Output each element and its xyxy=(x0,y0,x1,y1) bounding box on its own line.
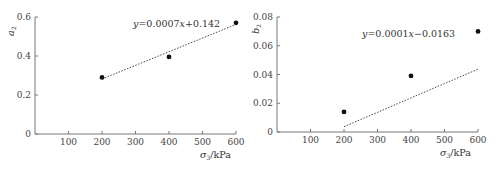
trendline-equation: y=0.0007x+0.142 xyxy=(132,18,220,29)
x-tick-label: 300 xyxy=(127,137,144,147)
y-tick-label: 0.6 xyxy=(17,12,32,22)
plot-area: 00.20.40.6100200300400500600 xyxy=(17,12,245,147)
x-tick-label: 100 xyxy=(302,135,319,145)
y-tick-label: 0.08 xyxy=(253,12,273,22)
data-point xyxy=(476,29,481,34)
y-tick-label: 0.06 xyxy=(253,41,273,51)
y-tick-label: 0 xyxy=(25,129,31,139)
y-tick-label: 0.04 xyxy=(253,70,273,80)
y-axis-label: b2 xyxy=(250,24,262,34)
trendline-equation: y=0.0001x−0.0163 xyxy=(361,28,455,39)
x-tick-label: 400 xyxy=(402,135,419,145)
x-tick-label: 400 xyxy=(160,137,177,147)
data-point xyxy=(409,74,414,79)
x-tick-label: 600 xyxy=(469,135,486,145)
x-tick-label: 600 xyxy=(227,137,244,147)
trendline xyxy=(102,24,236,79)
x-tick-label: 200 xyxy=(93,137,110,147)
chart-a2-vs-sigma3: 00.20.40.6100200300400500600 a2 σ3/kPa y… xyxy=(0,0,249,169)
x-tick-label: 500 xyxy=(194,137,211,147)
y-axis-label: a2 xyxy=(5,26,17,36)
y-tick-label: 0.02 xyxy=(253,98,273,108)
data-point xyxy=(342,109,347,114)
y-tick-label: 0 xyxy=(267,127,273,137)
x-axis-label: σ3/kPa xyxy=(440,147,471,159)
x-tick-label: 300 xyxy=(369,135,386,145)
y-tick-label: 0.4 xyxy=(17,51,32,61)
data-point xyxy=(167,55,172,60)
data-point xyxy=(234,20,239,25)
x-axis-label: σ3/kPa xyxy=(200,149,231,161)
data-point xyxy=(100,75,105,80)
x-tick-label: 100 xyxy=(60,137,77,147)
chart-b2-vs-sigma3: 00.020.040.060.08100200300400500600 b2 σ… xyxy=(249,0,498,169)
x-tick-label: 200 xyxy=(335,135,352,145)
x-tick-label: 500 xyxy=(436,135,453,145)
y-tick-label: 0.2 xyxy=(17,90,31,100)
